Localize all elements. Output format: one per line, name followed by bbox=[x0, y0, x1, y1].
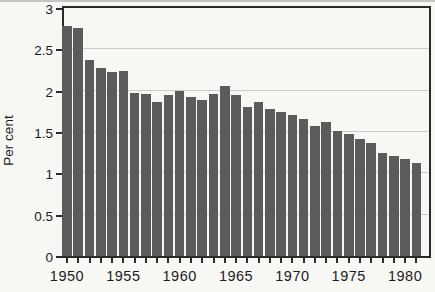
x-axis-tick bbox=[404, 258, 406, 263]
bar-1976 bbox=[355, 139, 365, 256]
y-axis-tick-label: 0.5 bbox=[19, 210, 53, 223]
x-axis-tick bbox=[89, 258, 91, 263]
x-axis-tick bbox=[303, 258, 305, 263]
y-axis-tick bbox=[56, 215, 62, 217]
x-axis-tick bbox=[291, 258, 293, 263]
x-axis-tick bbox=[156, 258, 158, 263]
bar-1951 bbox=[73, 28, 83, 256]
bar-1968 bbox=[265, 109, 275, 256]
gridline bbox=[64, 48, 429, 49]
x-axis-tick bbox=[201, 258, 203, 263]
x-axis-tick bbox=[167, 258, 169, 263]
bar-1962 bbox=[197, 100, 207, 256]
y-axis-tick bbox=[56, 91, 62, 93]
bar-1969 bbox=[276, 112, 286, 256]
y-axis-tick-label: 1 bbox=[19, 168, 53, 181]
bar-1971 bbox=[299, 119, 309, 256]
bar-1966 bbox=[243, 107, 253, 256]
x-axis-tick bbox=[359, 258, 361, 263]
y-axis-tick bbox=[56, 49, 62, 51]
x-axis-tick bbox=[213, 258, 215, 263]
y-axis-tick-label: 1.5 bbox=[19, 127, 53, 140]
plot-area bbox=[62, 6, 431, 258]
bar-1959 bbox=[164, 95, 174, 256]
bar-1952 bbox=[85, 60, 95, 256]
bar-1953 bbox=[96, 68, 106, 256]
bar-1956 bbox=[130, 93, 140, 256]
x-axis-tick bbox=[393, 258, 395, 263]
bar-1965 bbox=[231, 95, 241, 256]
percent-bar-chart-figure: Per cent 00.511.522.53195019551960196519… bbox=[0, 0, 435, 292]
bar-1970 bbox=[288, 115, 298, 256]
x-axis-tick bbox=[280, 258, 282, 263]
x-axis-tick-label: 1970 bbox=[270, 268, 314, 284]
y-axis-tick-label: 2 bbox=[19, 86, 53, 99]
y-axis-tick bbox=[56, 256, 62, 258]
bar-1978 bbox=[378, 153, 388, 256]
bar-1967 bbox=[254, 102, 264, 256]
y-axis-tick-label: 2.5 bbox=[19, 44, 53, 57]
x-axis-tick bbox=[179, 258, 181, 263]
x-axis-tick bbox=[370, 258, 372, 263]
x-axis-tick-label: 1975 bbox=[327, 268, 371, 284]
x-axis-tick bbox=[382, 258, 384, 263]
bar-1981 bbox=[412, 163, 422, 256]
y-axis-tick bbox=[56, 132, 62, 134]
bar-1973 bbox=[321, 122, 331, 256]
x-axis-tick bbox=[111, 258, 113, 263]
x-axis-tick bbox=[100, 258, 102, 263]
bar-1954 bbox=[107, 72, 117, 256]
bar-1961 bbox=[186, 97, 196, 256]
bar-1974 bbox=[333, 131, 343, 256]
x-axis-tick bbox=[134, 258, 136, 263]
scan-edge-line bbox=[0, 0, 435, 2]
x-axis-tick bbox=[224, 258, 226, 263]
bar-1957 bbox=[141, 94, 151, 256]
bar-1980 bbox=[400, 159, 410, 256]
y-axis-tick-label: 0 bbox=[19, 251, 53, 264]
bar-1960 bbox=[175, 91, 185, 256]
x-axis-tick bbox=[235, 258, 237, 263]
bar-1955 bbox=[119, 71, 129, 256]
x-axis-tick bbox=[269, 258, 271, 263]
y-axis-title: Per cent bbox=[1, 109, 16, 173]
bar-1972 bbox=[310, 126, 320, 256]
bar-1950 bbox=[62, 26, 72, 256]
x-axis-tick-label: 1965 bbox=[214, 268, 258, 284]
bar-1958 bbox=[152, 102, 162, 256]
x-axis-tick bbox=[246, 258, 248, 263]
x-axis-tick-label: 1960 bbox=[158, 268, 202, 284]
bar-1964 bbox=[220, 86, 230, 256]
x-axis-tick bbox=[122, 258, 124, 263]
bar-1979 bbox=[389, 156, 399, 256]
bar-1975 bbox=[344, 134, 354, 256]
y-axis-tick-label: 3 bbox=[19, 3, 53, 16]
x-axis-tick bbox=[77, 258, 79, 263]
x-axis-tick bbox=[66, 258, 68, 263]
bar-1977 bbox=[366, 143, 376, 256]
x-axis-tick-label: 1955 bbox=[101, 268, 145, 284]
x-axis-tick bbox=[258, 258, 260, 263]
x-axis-tick-label: 1980 bbox=[383, 268, 427, 284]
x-axis-tick bbox=[415, 258, 417, 263]
y-axis-tick bbox=[56, 8, 62, 10]
x-axis-tick bbox=[145, 258, 147, 263]
bar-1963 bbox=[209, 94, 219, 256]
y-axis-tick bbox=[56, 173, 62, 175]
x-axis-tick bbox=[190, 258, 192, 263]
x-axis-tick bbox=[348, 258, 350, 263]
x-axis-tick bbox=[325, 258, 327, 263]
x-axis-tick-label: 1950 bbox=[45, 268, 89, 284]
x-axis-tick bbox=[314, 258, 316, 263]
x-axis-tick bbox=[336, 258, 338, 263]
